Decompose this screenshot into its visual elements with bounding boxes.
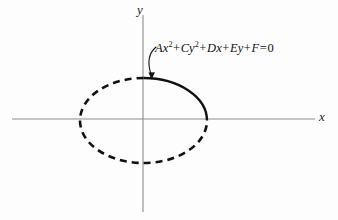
equation-operator-plus-2: +	[199, 41, 207, 55]
ellipse-solid-arc	[144, 78, 208, 121]
equation-term-c: Cy	[181, 41, 195, 55]
equation-term-a: Ax	[155, 41, 168, 55]
equation-term-e: Ey	[230, 41, 243, 55]
conic-equation-annotation: Ax2+Cy2+Dx+Ey+F=0	[155, 42, 274, 56]
equation-operator-plus-1: +	[173, 41, 181, 55]
equation-exponent-a: 2	[168, 40, 172, 49]
equation-term-d: Dx	[207, 41, 222, 55]
equation-operator-plus-4: +	[243, 41, 251, 55]
equation-value-zero: 0	[267, 41, 273, 55]
figure-canvas	[0, 0, 338, 220]
y-axis-label: y	[137, 3, 143, 16]
equation-operator-plus-3: +	[222, 41, 230, 55]
conic-ellipse-figure: y x Ax2+Cy2+Dx+Ey+F=0	[0, 0, 338, 220]
x-axis-label: x	[319, 110, 325, 123]
